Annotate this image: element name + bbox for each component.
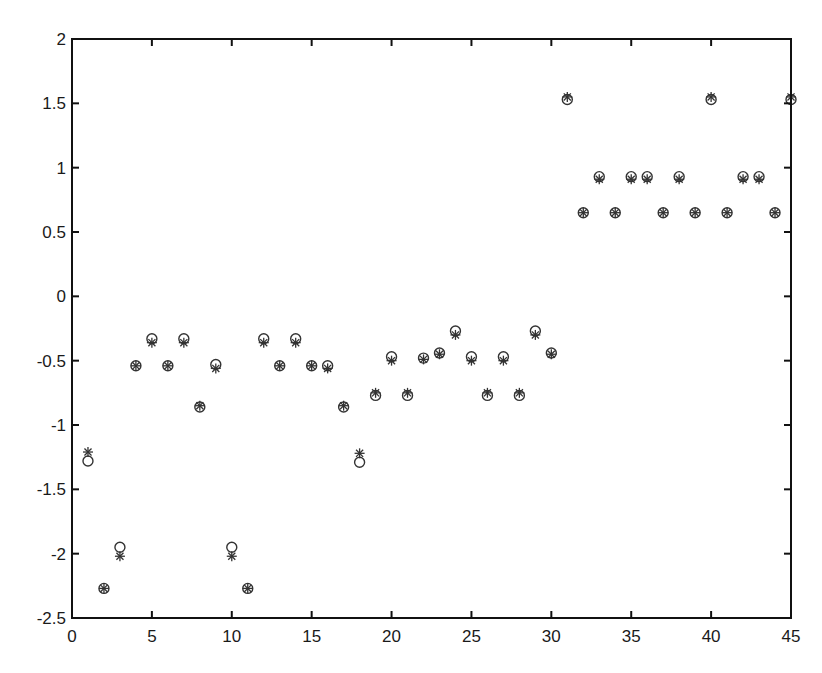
star-marker (163, 361, 173, 371)
star-marker (227, 551, 237, 561)
star-marker (211, 363, 221, 373)
y-tick-label: 1 (57, 159, 66, 178)
star-marker (690, 208, 700, 218)
x-axis: 051015202530354045 (67, 39, 800, 646)
star-marker (419, 354, 429, 364)
y-tick-label: -2.5 (37, 609, 66, 628)
star-marker (323, 363, 333, 373)
star-marker (291, 338, 301, 348)
circle-marker (227, 542, 237, 552)
x-tick-label: 5 (147, 627, 156, 646)
star-marker (83, 447, 93, 457)
star-marker (450, 330, 460, 340)
y-tick-label: -1.5 (37, 480, 66, 499)
x-tick-label: 45 (782, 627, 801, 646)
star-marker (307, 361, 317, 371)
star-marker (195, 401, 205, 411)
star-marker (562, 92, 572, 102)
star-marker (243, 583, 253, 593)
star-marker (738, 174, 748, 184)
circle-marker (355, 457, 365, 467)
star-marker (371, 388, 381, 398)
star-marker (706, 92, 716, 102)
star-marker (434, 349, 444, 359)
x-tick-label: 35 (622, 627, 641, 646)
star-marker (179, 338, 189, 348)
star-marker (546, 349, 556, 359)
star-marker (387, 356, 397, 366)
y-axis: 21.510.50-0.5-1-1.5-2-2.5 (37, 30, 791, 628)
star-marker (355, 448, 365, 458)
x-tick-label: 25 (462, 627, 481, 646)
star-marker (658, 208, 668, 218)
y-tick-label: 1.5 (42, 94, 66, 113)
circle-marker (115, 542, 125, 552)
circle-marker (83, 456, 93, 466)
x-tick-label: 15 (302, 627, 321, 646)
star-marker (147, 338, 157, 348)
star-marker (466, 356, 476, 366)
star-marker (770, 208, 780, 218)
star-marker (754, 174, 764, 184)
axes-frame (72, 39, 791, 618)
data-markers (83, 92, 796, 594)
star-marker (131, 361, 141, 371)
star-marker (610, 208, 620, 218)
star-marker (339, 401, 349, 411)
star-marker (99, 583, 109, 593)
star-marker (626, 174, 636, 184)
star-marker (115, 551, 125, 561)
star-marker (594, 174, 604, 184)
scatter-chart: 051015202530354045 21.510.50-0.5-1-1.5-2… (0, 0, 822, 673)
y-tick-label: 0 (57, 287, 66, 306)
star-marker (722, 208, 732, 218)
star-marker (514, 388, 524, 398)
star-marker (530, 330, 540, 340)
x-tick-label: 30 (542, 627, 561, 646)
star-marker (642, 174, 652, 184)
x-tick-label: 20 (382, 627, 401, 646)
star-marker (403, 388, 413, 398)
star-marker (482, 388, 492, 398)
star-marker (674, 174, 684, 184)
y-tick-label: -0.5 (37, 352, 66, 371)
star-marker (275, 361, 285, 371)
star-marker (578, 208, 588, 218)
y-tick-label: 0.5 (42, 223, 66, 242)
y-tick-label: -2 (51, 545, 66, 564)
y-tick-label: 2 (57, 30, 66, 49)
x-tick-label: 0 (67, 627, 76, 646)
y-tick-label: -1 (51, 416, 66, 435)
x-tick-label: 10 (222, 627, 241, 646)
star-marker (259, 338, 269, 348)
star-marker (498, 356, 508, 366)
x-tick-label: 40 (702, 627, 721, 646)
